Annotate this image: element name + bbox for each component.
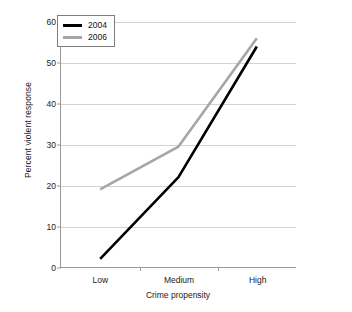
y-axis-title: Percent violent response [23, 40, 33, 220]
x-tick-mark [218, 267, 219, 271]
chart-legend: 20042006 [57, 15, 115, 47]
x-tick-mark [140, 267, 141, 271]
y-tick-label: 40 [47, 99, 56, 109]
legend-label: 2006 [88, 33, 107, 42]
y-tick-label: 50 [47, 58, 56, 68]
legend-swatch-icon [63, 36, 82, 39]
x-tick-label: Medium [164, 275, 194, 285]
x-tick-label: Low [93, 275, 109, 285]
legend-item-2006: 2006 [63, 31, 107, 43]
line-chart: Percent violent response 0102030405060 L… [0, 0, 352, 312]
legend-label: 2004 [88, 21, 107, 30]
y-tick-mark [57, 268, 61, 269]
y-tick-label: 60 [47, 17, 56, 27]
y-tick-label: 0 [51, 263, 56, 273]
y-tick-label: 20 [47, 181, 56, 191]
y-tick-label: 10 [47, 222, 56, 232]
series-line-2006 [100, 38, 257, 189]
x-tick-label: High [249, 275, 266, 285]
legend-item-2004: 2004 [63, 19, 107, 31]
legend-swatch-icon [63, 24, 82, 27]
x-axis-title: Crime propensity [60, 290, 296, 300]
series-line-2004 [100, 47, 257, 259]
y-tick-label: 30 [47, 140, 56, 150]
plot-area: 0102030405060 LowMediumHigh [60, 22, 296, 268]
gridline [61, 268, 296, 269]
series-lines [61, 22, 296, 267]
